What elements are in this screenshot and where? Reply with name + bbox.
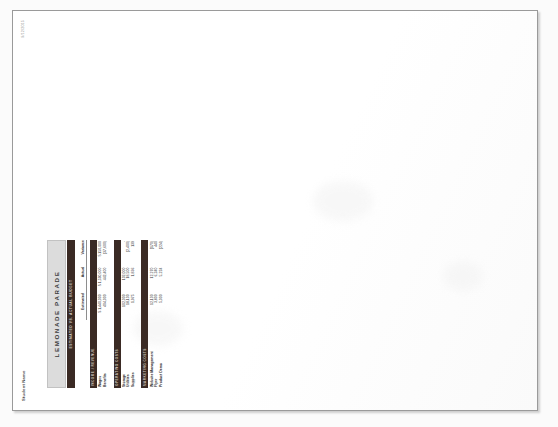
worksheet-title: LEMONADE PARADE [53, 271, 60, 358]
printed-page: 9/12/2015 Student Name LEMONADE PARADE E… [12, 10, 538, 411]
table-row: Product Demo5,0005,224(224) [159, 240, 163, 388]
student-name-label: Student Name [21, 370, 26, 401]
section-heading: OPERATING COSTS [115, 349, 119, 386]
section-band: MARKETING COSTS [141, 240, 148, 388]
rotated-document-content: 9/12/2015 Student Name LEMONADE PARADE E… [13, 11, 537, 410]
section-band-cell: MARKETING COSTS [139, 240, 150, 388]
section-income: INCOME / REVENUE [87, 240, 99, 388]
budget-table-body: INCOME / REVENUEWages$ 1,440,000$ 1,590,… [87, 240, 163, 388]
section-band-cell: OPERATING COSTS [111, 240, 122, 388]
section-marketing: MARKETING COSTS [139, 240, 150, 388]
worksheet-title-bar: LEMONADE PARADE [47, 240, 66, 388]
cell-actual: 5,224 [159, 267, 163, 294]
budget-table: Estimated Actual Variance INCOME / REVEN… [81, 240, 163, 388]
budget-worksheet: LEMONADE PARADE ESTIMATED VS. ACTUAL BUD… [47, 240, 163, 388]
section-operating: OPERATING COSTS [111, 240, 122, 388]
section-band: OPERATING COSTS [114, 240, 121, 388]
section-band-cell: INCOME / REVENUE [87, 240, 99, 388]
cell-estimated: 5,000 [159, 293, 163, 320]
section-band: INCOME / REVENUE [90, 240, 97, 388]
row-label: Product Demo [159, 320, 163, 388]
scan-surface: 9/12/2015 Student Name LEMONADE PARADE E… [0, 0, 558, 427]
worksheet-subtitle: ESTIMATED VS. ACTUAL BUDGET [69, 280, 73, 349]
section-heading: INCOME / REVENUE [91, 348, 95, 386]
section-heading: MARKETING COSTS [143, 348, 147, 386]
cell-variance: (224) [159, 240, 163, 267]
date-stamp: 9/12/2015 [21, 20, 25, 38]
worksheet-subtitle-bar: ESTIMATED VS. ACTUAL BUDGET [67, 240, 75, 388]
